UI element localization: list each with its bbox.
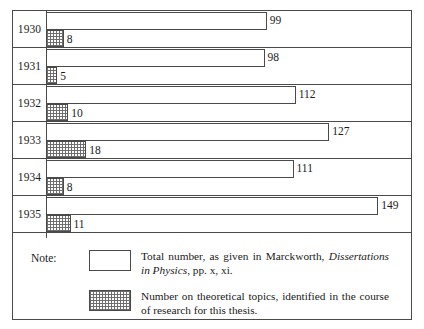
theoretical-bar-value: 10 — [71, 108, 83, 120]
year-label: 1932 — [13, 85, 46, 122]
theoretical-bar-value: 18 — [89, 145, 101, 157]
hatched-swatch-icon — [89, 290, 131, 311]
theoretical-bar — [46, 104, 68, 121]
theoretical-bar — [46, 215, 71, 232]
total-bar — [46, 12, 267, 30]
chart-note-legend: Note: Total number, as given in Marckwor… — [13, 238, 411, 320]
total-bar — [46, 49, 265, 67]
theoretical-bar-value: 8 — [67, 182, 73, 194]
legend-item-total-text: Total number, as given in Marckworth, Di… — [141, 249, 389, 277]
chart-row: 1930998 — [13, 11, 411, 48]
total-bar — [46, 160, 294, 178]
legend-item-total: Total number, as given in Marckworth, Di… — [89, 247, 389, 282]
theoretical-bar — [46, 178, 64, 195]
chart-row: 19341118 — [13, 159, 411, 196]
legend-item-theoretical: Number on theoretical topics, identified… — [89, 287, 389, 322]
chart-plot-area: 1930998193198519321121019331271819341118… — [13, 11, 411, 238]
year-label: 1930 — [13, 11, 46, 48]
theoretical-bar — [46, 30, 64, 47]
chart-row: 1931985 — [13, 48, 411, 85]
total-bar-value: 98 — [268, 52, 280, 64]
chart-row: 193514911 — [13, 196, 411, 233]
year-label: 1934 — [13, 159, 46, 196]
total-bar-value: 99 — [270, 15, 282, 27]
chart-row: 193312718 — [13, 122, 411, 159]
theoretical-bar — [46, 141, 86, 158]
theoretical-bar-value: 5 — [60, 71, 66, 83]
legend-total-text-before: Total number, as given in Marckworth, — [141, 250, 329, 262]
theoretical-bar-value: 8 — [67, 34, 73, 46]
value-axis-baseline — [46, 11, 47, 238]
total-bar — [46, 197, 378, 215]
bar-chart-figure: 1930998193198519321121019331271819341118… — [12, 10, 412, 320]
total-bar — [46, 123, 329, 141]
total-bar-value: 149 — [381, 200, 398, 212]
legend-item-theoretical-text: Number on theoretical topics, identified… — [141, 289, 389, 317]
total-bar-value: 127 — [332, 126, 349, 138]
theoretical-bar — [46, 67, 57, 84]
note-label: Note: — [31, 252, 57, 264]
legend-theory-text-before: Number on theoretical topics, identified… — [141, 290, 389, 316]
year-label: 1933 — [13, 122, 46, 159]
year-label: 1935 — [13, 196, 46, 233]
year-label: 1931 — [13, 48, 46, 85]
total-bar-value: 111 — [297, 163, 313, 175]
chart-row: 193211210 — [13, 85, 411, 122]
total-bar — [46, 86, 296, 104]
total-bar-value: 112 — [299, 89, 316, 101]
plain-swatch-icon — [89, 250, 131, 271]
legend-total-text-after: , pp. x, xi. — [187, 264, 233, 276]
theoretical-bar-value: 11 — [74, 219, 85, 231]
